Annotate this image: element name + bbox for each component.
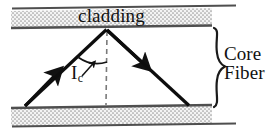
critical-angle-label: Ic	[71, 63, 83, 85]
core-fiber-label: CoreFiber	[224, 44, 265, 83]
reflected-ray	[107, 30, 189, 106]
angle-subscript: c	[78, 71, 83, 85]
normal-dashed-line	[106, 31, 107, 105]
optical-fiber-diagram: cladding CoreFiber Ic	[0, 0, 274, 136]
angle-symbol: I	[71, 62, 77, 83]
angle-leader-arrow	[82, 62, 95, 76]
cladding-label: cladding	[78, 6, 145, 25]
incident-ray	[25, 30, 107, 107]
core-label-line2: Fiber	[224, 62, 265, 83]
core-label-line1: Core	[224, 43, 261, 64]
